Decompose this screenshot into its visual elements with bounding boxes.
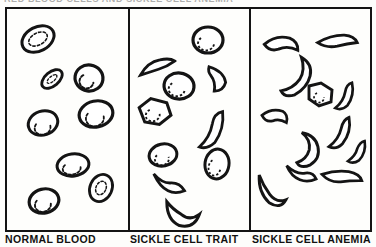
panel-sickle-cell-trait: [128, 9, 249, 230]
label-normal-blood: NORMAL BLOOD: [5, 233, 96, 245]
sickle-cell-trait-cells-illustration: [130, 9, 249, 230]
label-sickle-cell-trait: SICKLE CELL TRAIT: [130, 233, 238, 245]
panel-normal-blood: [7, 9, 128, 230]
figure-top-caption: RED BLOOD CELLS AND SICKLE CELL ANEMIA: [4, 0, 233, 4]
figure-top-caption-strip: RED BLOOD CELLS AND SICKLE CELL ANEMIA: [0, 0, 376, 7]
normal-blood-cells-illustration: [7, 9, 128, 230]
panels-frame: [5, 7, 372, 232]
label-sickle-cell-anemia: SICKLE CELL ANEMIA: [252, 233, 371, 245]
panel-sickle-cell-anemia: [249, 9, 370, 230]
sickle-cell-comparison-figure: RED BLOOD CELLS AND SICKLE CELL ANEMIA: [0, 0, 376, 247]
sickle-cell-anemia-cells-illustration: [251, 9, 370, 230]
panel-labels-row: NORMAL BLOOD SICKLE CELL TRAIT SICKLE CE…: [0, 233, 376, 247]
